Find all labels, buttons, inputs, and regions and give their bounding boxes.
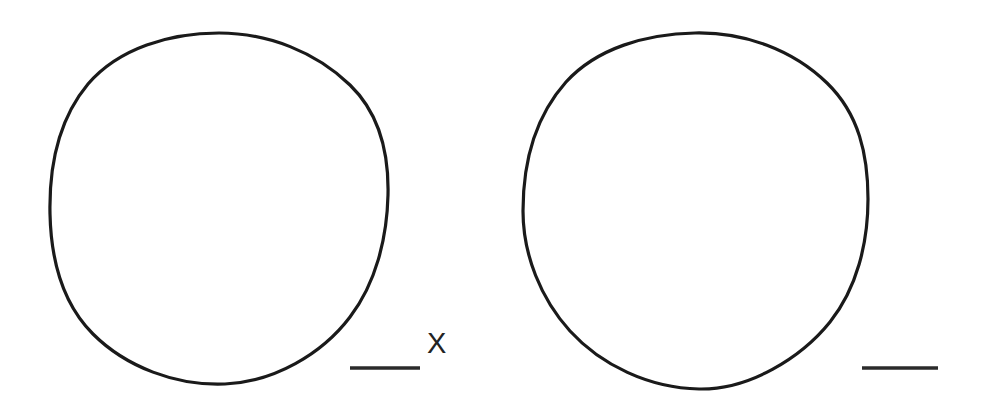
circular-cell-outline-icon (523, 33, 868, 389)
figure-canvas: X X (0, 0, 1001, 407)
figure-panel-right: X (480, 0, 1001, 407)
panel-right-drawing (480, 0, 1001, 407)
figure-panel-left: X (0, 0, 480, 407)
panel-left-drawing (0, 0, 480, 407)
circular-cell-outline-icon (50, 33, 388, 384)
scale-bar-label-left: X (427, 329, 446, 358)
